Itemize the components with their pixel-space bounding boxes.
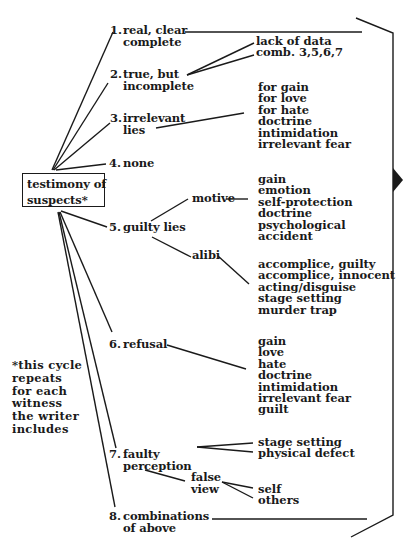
node-3-subitems: for gain for love for hate doctrine inti…: [258, 82, 351, 150]
node-7-line2: perception: [123, 461, 192, 473]
node-3-line2: lies: [123, 125, 145, 137]
node-2-subitems: lack of data comb. 3,5,6,7: [256, 36, 343, 59]
node-3-number: 3.: [110, 113, 122, 125]
alibi-subitems: accomplice, guilty accomplice, innocent …: [258, 259, 395, 316]
node-1-line2: complete: [123, 37, 181, 49]
list-item: irrelevant fear: [258, 139, 351, 150]
node-4-line1: none: [123, 158, 154, 170]
node-6-number: 6.: [109, 339, 121, 351]
node-5-branch-alibi: alibi: [192, 250, 220, 262]
list-item: guilt: [258, 404, 351, 415]
node-2-number: 2.: [110, 69, 122, 81]
node-8-number: 8.: [109, 511, 121, 523]
node-5-line1: guilty lies: [123, 222, 186, 234]
node-6-line1: refusal: [123, 339, 167, 351]
list-item: murder trap: [258, 305, 395, 316]
root-label-line1: testimony of: [23, 174, 104, 190]
footnote: *this cycle repeats for each witness the…: [12, 359, 82, 436]
list-item: others: [258, 495, 299, 506]
false-view-subitems: self others: [258, 484, 299, 507]
list-item: physical defect: [258, 448, 355, 459]
node-5-number: 5.: [109, 222, 121, 234]
footnote-line: *this cycle: [12, 359, 82, 372]
motive-subitems: gain emotion self-protection doctrine ps…: [258, 174, 353, 242]
node-2-line2: incomplete: [123, 81, 194, 93]
node-4-number: 4.: [109, 158, 121, 170]
list-item: accident: [258, 231, 353, 242]
list-item: comb. 3,5,6,7: [256, 47, 343, 58]
root-node-testimony-of-suspects: testimony of suspects*: [22, 173, 105, 207]
node-1-number: 1.: [110, 25, 122, 37]
node-7-subitems: stage setting physical defect: [258, 437, 355, 460]
root-label-line2: suspects*: [23, 190, 104, 206]
footnote-line: includes: [12, 423, 82, 436]
footnote-line: repeats: [12, 372, 82, 385]
node-6-subitems: gain love hate doctrine intimidation irr…: [258, 336, 351, 416]
node-7-number: 7.: [109, 449, 121, 461]
node-7-branch-false-line2: view: [191, 484, 219, 496]
arrow-right-icon: [393, 168, 403, 192]
node-5-branch-motive: motive: [192, 193, 235, 205]
node-8-line2: of above: [123, 523, 176, 535]
